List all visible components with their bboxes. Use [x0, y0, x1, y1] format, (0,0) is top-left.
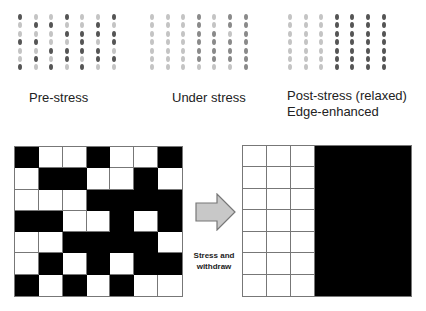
- dot: [382, 64, 386, 70]
- arrow-caption-line1: Stress and: [189, 250, 239, 261]
- dot: [34, 39, 38, 45]
- dot: [181, 31, 185, 37]
- grid-cell-black: [315, 210, 339, 231]
- grid-cell-white: [291, 210, 315, 231]
- grid-cell-black: [87, 253, 111, 274]
- dot: [228, 14, 232, 20]
- dot: [335, 22, 339, 28]
- dot: [350, 14, 354, 20]
- dot: [304, 14, 308, 20]
- dot: [34, 22, 38, 28]
- under-stress-label: Under stress: [172, 90, 246, 106]
- grid-cell-black: [387, 189, 411, 210]
- dot: [150, 48, 154, 54]
- dot: [212, 48, 216, 54]
- dot: [80, 64, 84, 70]
- dot: [49, 14, 53, 20]
- dot: [335, 48, 339, 54]
- dot: [166, 56, 170, 62]
- dot: [166, 64, 170, 70]
- grid-cell-black: [63, 232, 87, 253]
- dot: [49, 64, 53, 70]
- dot: [150, 39, 154, 45]
- grid-cell-white: [291, 167, 315, 188]
- grid-cell-white: [243, 167, 267, 188]
- grid-cell-black: [363, 253, 387, 274]
- grid-cell-white: [39, 147, 63, 168]
- pre-stress-label-text: Pre-stress: [29, 90, 88, 105]
- grid-cell-white: [267, 189, 291, 210]
- dot: [212, 31, 216, 37]
- dot: [350, 39, 354, 45]
- grid-cell-black: [110, 211, 134, 232]
- dot: [150, 31, 154, 37]
- grid-cell-black: [110, 232, 134, 253]
- grid-cell-white: [243, 189, 267, 210]
- dot: [18, 56, 22, 62]
- dot: [319, 31, 323, 37]
- dot: [80, 39, 84, 45]
- grid-cell-white: [291, 253, 315, 274]
- dot: [319, 56, 323, 62]
- grid-cell-black: [134, 232, 158, 253]
- grid-cell-black: [339, 253, 363, 274]
- dot: [228, 48, 232, 54]
- dot: [366, 39, 370, 45]
- dot: [382, 22, 386, 28]
- grid-cell-black: [110, 275, 134, 296]
- grid-cell-white: [158, 168, 182, 189]
- grid-cell-black: [39, 168, 63, 189]
- grid-cell-white: [267, 232, 291, 253]
- dot: [65, 31, 69, 37]
- dot: [228, 31, 232, 37]
- grid-cell-white: [63, 147, 87, 168]
- dot: [319, 39, 323, 45]
- dot: [288, 14, 292, 20]
- grid-cell-white: [87, 211, 111, 232]
- dot: [288, 56, 292, 62]
- dot: [197, 48, 201, 54]
- grid-cell-black: [315, 146, 339, 167]
- dot: [319, 14, 323, 20]
- grid-cell-black: [315, 275, 339, 296]
- grid-cell-black: [87, 232, 111, 253]
- dot: [34, 48, 38, 54]
- grid-cell-white: [39, 275, 63, 296]
- grid-cell-black: [387, 275, 411, 296]
- grid-cell-black: [339, 210, 363, 231]
- grid-cell-white: [110, 147, 134, 168]
- grid-cell-white: [15, 232, 39, 253]
- grid-cell-black: [315, 189, 339, 210]
- grid-cell-black: [87, 190, 111, 211]
- dot: [65, 22, 69, 28]
- dot: [65, 39, 69, 45]
- dot: [366, 56, 370, 62]
- dot: [335, 39, 339, 45]
- grid-cell-white: [39, 232, 63, 253]
- grid-cell-white: [110, 253, 134, 274]
- grid-cell-black: [339, 146, 363, 167]
- dot: [288, 22, 292, 28]
- dot: [112, 22, 116, 28]
- grid-cell-black: [158, 190, 182, 211]
- grid-cell-white: [267, 253, 291, 274]
- dot: [112, 56, 116, 62]
- dot: [34, 14, 38, 20]
- arrow-right-icon: [195, 193, 237, 231]
- dot: [197, 31, 201, 37]
- dot: [49, 22, 53, 28]
- dot: [335, 14, 339, 20]
- dot: [166, 22, 170, 28]
- dot: [181, 48, 185, 54]
- dot: [366, 14, 370, 20]
- dot: [197, 22, 201, 28]
- grid-cell-black: [134, 190, 158, 211]
- grid-cell-black: [15, 275, 39, 296]
- post-stress-label-line1: Post-stress (relaxed): [287, 88, 407, 104]
- dot: [244, 56, 248, 62]
- dot: [96, 39, 100, 45]
- dot: [350, 64, 354, 70]
- dot: [197, 64, 201, 70]
- grid-cell-black: [315, 232, 339, 253]
- dot: [166, 14, 170, 20]
